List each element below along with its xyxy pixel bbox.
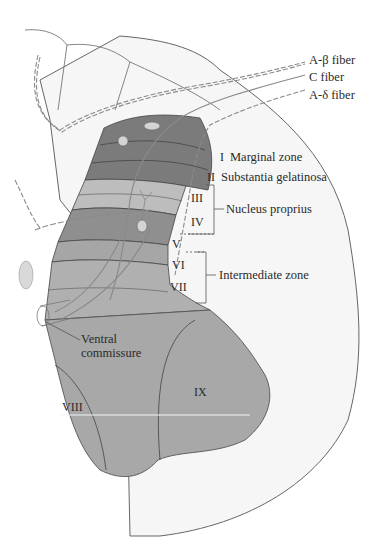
- label-marginal-zone: Marginal zone: [230, 150, 302, 164]
- label-lamina-III-numeral: III: [191, 191, 203, 205]
- label-lamina-I-numeral: I: [220, 150, 224, 164]
- label-lamina-V-numeral: V: [172, 237, 181, 251]
- label-lamina-IX-numeral: IX: [194, 385, 207, 399]
- label-a-beta-fiber: A-β fiber: [309, 53, 355, 67]
- label-lamina-VI-numeral: VI: [172, 258, 185, 272]
- label-lamina-II-numeral: II: [207, 170, 215, 184]
- neuron-lamina-I-b: [144, 122, 160, 130]
- label-ventral-commissure-2: commissure: [81, 346, 141, 360]
- label-ventral-commissure-1: Ventral: [81, 332, 117, 346]
- neuron-lamina-I: [118, 136, 128, 146]
- label-lamina-VIII-numeral: VIII: [62, 400, 83, 414]
- central-canal: [19, 261, 33, 289]
- label-intermediate-zone: Intermediate zone: [219, 268, 309, 282]
- label-a-delta-fiber: A-δ fiber: [309, 88, 355, 102]
- label-lamina-IV-numeral: IV: [191, 215, 204, 229]
- neuron-lamina-IV: [137, 220, 147, 232]
- label-lamina-VII-numeral: VII: [170, 280, 187, 294]
- label-substantia-gelatinosa: Substantia gelatinosa: [221, 170, 327, 184]
- label-c-fiber: C fiber: [309, 70, 344, 84]
- label-nucleus-proprius: Nucleus proprius: [226, 202, 312, 216]
